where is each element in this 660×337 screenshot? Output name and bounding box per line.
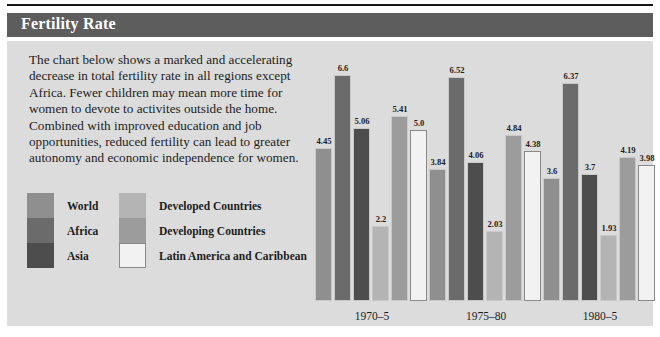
- bar: [486, 231, 503, 301]
- legend-item-latin-america-caribbean: Latin America and Caribbean: [119, 243, 317, 268]
- bar-slot: 3.98: [638, 61, 655, 301]
- content-panel: The chart below shows a marked and accel…: [7, 41, 653, 326]
- legend-item-world: World: [27, 193, 119, 218]
- bar-group-bars: 4.456.65.062.25.415.0: [315, 61, 427, 301]
- bar: [315, 148, 332, 301]
- legend-item-asia: Asia: [27, 243, 119, 268]
- fertility-rate-bar-chart: 4.456.65.062.25.415.01970–53.846.524.062…: [307, 41, 653, 326]
- top-divider-rule: [7, 4, 653, 6]
- bar-group: 3.66.373.71.934.193.981980–5: [543, 41, 657, 326]
- bar: [372, 226, 389, 301]
- bar: [638, 165, 655, 301]
- bar-value-label: 5.06: [350, 116, 374, 126]
- bar-value-label: 2.03: [483, 219, 507, 229]
- legend-item-africa: Africa: [27, 218, 119, 243]
- bar-group: 4.456.65.062.25.415.01970–5: [315, 41, 429, 326]
- category-axis-label: 1980–5: [543, 310, 657, 322]
- bar-value-label: 6.52: [445, 65, 469, 75]
- bar: [429, 169, 446, 301]
- bar: [562, 83, 579, 301]
- bar-value-label: 3.98: [635, 153, 659, 163]
- title-bar: Fertility Rate: [7, 13, 653, 37]
- category-axis-label: 1970–5: [315, 310, 429, 322]
- bar-value-label: 1.93: [597, 223, 621, 233]
- bar-value-label: 6.37: [559, 71, 583, 81]
- legend-swatch-developing-countries: [119, 218, 146, 243]
- bar-slot: 5.06: [353, 61, 370, 301]
- bar-value-label: 6.6: [331, 63, 355, 73]
- page-title: Fertility Rate: [21, 15, 116, 33]
- bar-slot: 6.37: [562, 61, 579, 301]
- bar-value-label: 2.2: [369, 214, 393, 224]
- bar-slot: 4.06: [467, 61, 484, 301]
- legend-label-latin-america-caribbean: Latin America and Caribbean: [159, 250, 307, 262]
- bar: [581, 174, 598, 301]
- legend-label-world: World: [67, 200, 98, 212]
- bar-slot: 2.03: [486, 61, 503, 301]
- bar-value-label: 5.41: [388, 104, 412, 114]
- legend-label-asia: Asia: [67, 250, 89, 262]
- legend-item-developed-countries: Developed Countries: [119, 193, 317, 218]
- bar-value-label: 4.84: [502, 123, 526, 133]
- legend-swatch-world: [27, 193, 54, 218]
- chart-legend: World Africa Asia Developed Countries: [27, 193, 317, 268]
- bar: [410, 130, 427, 301]
- bar: [391, 116, 408, 301]
- bar: [334, 75, 351, 301]
- bar-group-bars: 3.66.373.71.934.193.98: [543, 61, 655, 301]
- bar-slot: 1.93: [600, 61, 617, 301]
- legend-label-developing-countries: Developing Countries: [159, 225, 265, 237]
- bar: [600, 235, 617, 301]
- legend-item-developing-countries: Developing Countries: [119, 218, 317, 243]
- bar-slot: 5.41: [391, 61, 408, 301]
- bar-slot: 4.38: [524, 61, 541, 301]
- legend-column-right: Developed Countries Developing Countries…: [119, 193, 317, 268]
- bar-slot: 3.84: [429, 61, 446, 301]
- bar-value-label: 4.38: [521, 139, 545, 149]
- bar-value-label: 4.06: [464, 150, 488, 160]
- fertility-rate-infographic: Fertility Rate The chart below shows a m…: [0, 0, 660, 337]
- bar-slot: 2.2: [372, 61, 389, 301]
- bar-value-label: 3.84: [426, 157, 450, 167]
- legend-swatch-asia: [27, 243, 54, 268]
- category-axis-label: 1975–80: [429, 310, 543, 322]
- bar: [353, 128, 370, 301]
- bar-slot: 6.6: [334, 61, 351, 301]
- bar: [524, 151, 541, 301]
- bar: [505, 135, 522, 301]
- bar-slot: 6.52: [448, 61, 465, 301]
- bar-slot: 4.19: [619, 61, 636, 301]
- bar: [467, 162, 484, 301]
- legend-label-developed-countries: Developed Countries: [159, 200, 262, 212]
- bar: [448, 77, 465, 301]
- legend-swatch-africa: [27, 218, 54, 243]
- bar-slot: 5.0: [410, 61, 427, 301]
- bar-group: 3.846.524.062.034.844.381975–80: [429, 41, 543, 326]
- bar-slot: 3.6: [543, 61, 560, 301]
- bar-group-bars: 3.846.524.062.034.844.38: [429, 61, 541, 301]
- bar-slot: 4.45: [315, 61, 332, 301]
- bar: [543, 178, 560, 301]
- bar-value-label: 5.0: [407, 118, 431, 128]
- bar-value-label: 3.6: [540, 166, 564, 176]
- bar-slot: 4.84: [505, 61, 522, 301]
- legend-column-left: World Africa Asia: [27, 193, 119, 268]
- description-paragraph: The chart below shows a marked and accel…: [29, 52, 309, 167]
- bar: [619, 157, 636, 301]
- legend-swatch-developed-countries: [119, 193, 146, 218]
- bar-value-label: 3.7: [578, 162, 602, 172]
- bar-value-label: 4.45: [312, 136, 336, 146]
- legend-label-africa: Africa: [67, 225, 98, 237]
- legend-swatch-latin-america-caribbean: [119, 243, 146, 268]
- bar-slot: 3.7: [581, 61, 598, 301]
